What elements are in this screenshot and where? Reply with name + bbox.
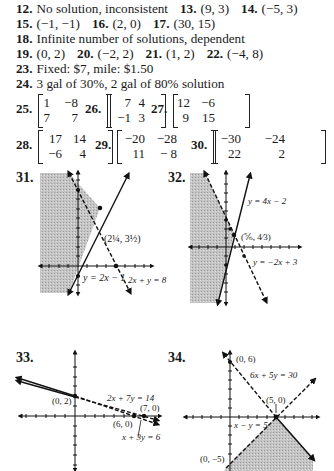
graph-33-p2-label: (6, 0) — [113, 419, 133, 429]
graph-32-point-label: (⅚, 4⁄3) — [241, 232, 271, 242]
graph-34-p3-label: (0, −5) — [200, 454, 225, 464]
graph-33-line-2x-7y-14-solid — [18, 378, 75, 396]
graph-31-line2-label: 2x + y = 8 — [128, 275, 166, 285]
graph-31-line1-label: y = 2x − 1 — [83, 272, 125, 283]
graph-33-p3-label: (7, 0) — [140, 403, 160, 413]
graph-33-line1-label: 2x + 7y = 14 — [107, 393, 154, 403]
graph-33-line-x-3y-6-solid — [18, 381, 75, 397]
graph-33-p1-label: (0, 2) — [52, 396, 72, 406]
graph-32-line1-label: y = 4x − 2 — [248, 196, 286, 206]
graph-33-line2-label: x + 3y = 6 — [122, 432, 160, 442]
graph-31-point-label: (2¼, 3½) — [104, 233, 141, 244]
graph-32-line2-label: y = −2x + 3 — [253, 257, 297, 267]
graph-34-p1-label: (0, 6) — [236, 354, 256, 364]
graph-34-line1-label: 6x + 5y = 30 — [250, 370, 297, 380]
graph-33 — [18, 352, 160, 470]
graph-34-line2-label: x − y = 5 — [234, 420, 268, 430]
graph-34-p2-label: (5, 0) — [266, 395, 286, 405]
